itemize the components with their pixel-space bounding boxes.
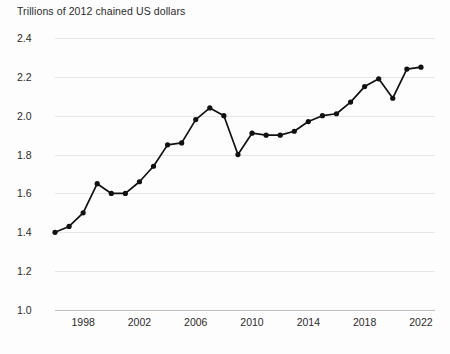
- series-markers: [52, 65, 423, 235]
- data-point: [207, 105, 212, 110]
- data-point: [151, 164, 156, 169]
- series-polyline: [55, 67, 421, 232]
- chart-container: Trillions of 2012 chained US dollars 2.4…: [0, 0, 450, 354]
- data-point: [179, 140, 184, 145]
- data-point: [418, 65, 423, 70]
- data-point: [362, 84, 367, 89]
- data-point: [376, 76, 381, 81]
- data-point: [348, 100, 353, 105]
- data-point: [95, 181, 100, 186]
- data-point: [193, 117, 198, 122]
- data-point: [306, 119, 311, 124]
- data-point: [123, 191, 128, 196]
- data-point: [52, 230, 57, 235]
- data-point: [165, 142, 170, 147]
- data-point: [404, 66, 409, 71]
- data-point: [249, 131, 254, 136]
- data-point: [278, 133, 283, 138]
- data-point: [235, 152, 240, 157]
- data-point: [390, 96, 395, 101]
- data-point: [292, 129, 297, 134]
- data-point: [334, 111, 339, 116]
- data-point: [221, 113, 226, 118]
- data-point: [137, 179, 142, 184]
- data-point: [109, 191, 114, 196]
- data-point: [264, 133, 269, 138]
- data-point: [66, 224, 71, 229]
- data-point: [81, 210, 86, 215]
- data-point: [320, 113, 325, 118]
- data-series-line: [0, 0, 450, 354]
